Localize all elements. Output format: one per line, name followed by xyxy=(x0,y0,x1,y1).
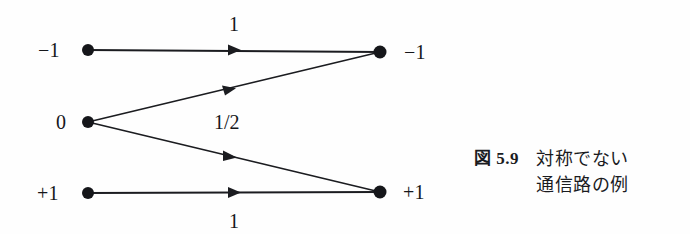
node-label-input-zero: 0 xyxy=(56,112,66,132)
figure-caption-line-2: 通信路の例 xyxy=(536,172,629,198)
arrowhead-zero-plus1 xyxy=(223,151,237,162)
figure-caption-number: 図 5.9 xyxy=(474,146,519,172)
node-output-plus1 xyxy=(374,186,387,199)
node-label-output-minus1: −1 xyxy=(404,42,426,62)
channel-diagram: −1 0 +1 −1 +1 1 1/2 1 xyxy=(0,0,470,234)
figure-page: −1 0 +1 −1 +1 1 1/2 1 図 5.9 対称でない 通信路の例 xyxy=(0,0,690,234)
node-label-input-minus1: −1 xyxy=(38,40,60,60)
edge-label-zero-branch: 1/2 xyxy=(214,112,240,132)
node-label-output-plus1: +1 xyxy=(403,182,425,202)
node-output-minus1 xyxy=(374,46,387,59)
figure-caption: 図 5.9 対称でない 通信路の例 xyxy=(474,146,629,198)
edge-label-minus1-minus1: 1 xyxy=(229,14,239,34)
node-label-input-plus1: +1 xyxy=(37,183,59,203)
node-input-plus1 xyxy=(82,187,94,199)
figure-caption-text: 対称でない 通信路の例 xyxy=(536,146,629,198)
arrowhead-plus1-plus1 xyxy=(228,187,241,198)
arrowhead-minus1-minus1 xyxy=(228,45,241,56)
edge-label-plus1-plus1: 1 xyxy=(229,211,239,231)
node-input-minus1 xyxy=(82,44,94,56)
node-input-zero xyxy=(82,116,94,128)
figure-caption-line-1: 対称でない xyxy=(536,146,629,172)
